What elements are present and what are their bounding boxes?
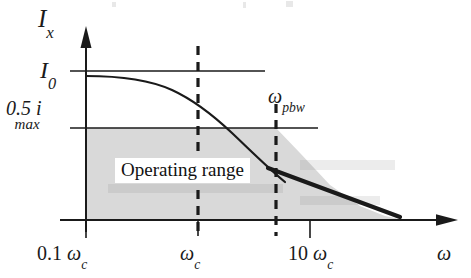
x-tick-label-omega-c: ωc <box>180 243 200 268</box>
x-tick-1-sub: c <box>81 257 87 272</box>
x-tick-2-symbol: ω <box>180 242 194 264</box>
x-tick-3-sub: c <box>327 257 333 272</box>
x-axis-title: ω <box>437 243 451 263</box>
operating-range-callout: Operating range <box>115 158 250 183</box>
x-axis-arrowhead <box>436 214 458 226</box>
y-axis-title: Ix <box>38 6 54 36</box>
annotation-omega-pbw: ωpbw <box>268 86 305 111</box>
y-tick-half-imax-line1: 0.5 i <box>6 98 42 118</box>
plot-svg <box>0 0 471 278</box>
y-tick-label-half-imax: 0.5 i max <box>6 98 42 132</box>
omega-pbw-sub: pbw <box>282 100 305 115</box>
y-tick-label-i0: I0 <box>40 58 56 87</box>
omega-pbw-symbol: ω <box>268 85 282 107</box>
y-axis-title-sub: x <box>46 23 54 42</box>
x-tick-3-prefix: 10 <box>288 242 313 264</box>
figure-container: Ix I0 0.5 i max ωpbw 0.1 ωc ωc 10 ωc ω O… <box>0 0 471 278</box>
y-axis-arrowhead <box>81 26 92 48</box>
y-tick-half-imax-line2: max <box>6 117 42 132</box>
x-tick-2-sub: c <box>194 257 200 272</box>
y-tick-i0-sub: 0 <box>48 74 56 93</box>
x-tick-label-0p1-omega-c: 0.1 ωc <box>37 243 87 268</box>
x-tick-3-symbol: ω <box>313 242 327 264</box>
x-tick-label-10-omega-c: 10 ωc <box>288 243 333 268</box>
y-tick-i0-main: I <box>40 57 48 83</box>
x-tick-1-symbol: ω <box>67 242 81 264</box>
x-tick-1-prefix: 0.1 <box>37 242 67 264</box>
